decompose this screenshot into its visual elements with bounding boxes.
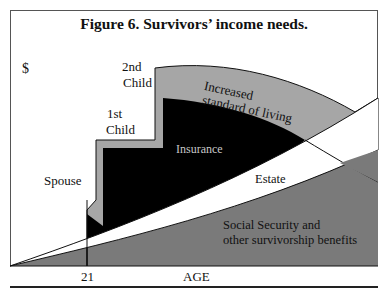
x-tick-21: 21: [81, 269, 94, 284]
figure-title: Figure 6. Survivors’ income needs.: [10, 15, 378, 33]
y-axis-label: $: [22, 61, 29, 76]
label-spouse: Spouse: [44, 173, 82, 188]
bottom-rule: [10, 286, 378, 288]
label-first-child-1: 1st: [107, 106, 122, 121]
label-second-child-1: 2nd: [122, 59, 142, 74]
label-first-child-2: Child: [106, 122, 135, 137]
label-second-child-2: Child: [123, 75, 152, 90]
label-estate: Estate: [255, 172, 286, 187]
x-axis-label: AGE: [183, 269, 210, 284]
label-insurance: Insurance: [176, 142, 223, 157]
label-social-security-1: Social Security and: [223, 218, 320, 233]
label-social-security-2: other survivorship benefits: [223, 233, 357, 248]
